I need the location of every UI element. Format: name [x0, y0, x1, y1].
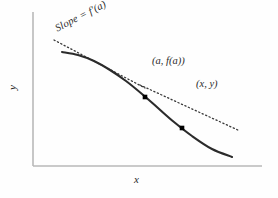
secant-line: [140, 85, 240, 131]
y-axis-label: y: [7, 85, 18, 90]
point-marker: [180, 126, 185, 131]
figure-canvas: [0, 0, 278, 198]
x-axis-label: x: [134, 174, 139, 185]
point-marker: [143, 95, 148, 100]
point-x-label: (x, y): [196, 79, 218, 90]
point-a-label: (a, f(a)): [152, 56, 185, 67]
function-curve: [62, 52, 232, 157]
tangent-line-figure: Slope = f'(a) (a, f(a)) (x, y) y x: [0, 0, 278, 198]
